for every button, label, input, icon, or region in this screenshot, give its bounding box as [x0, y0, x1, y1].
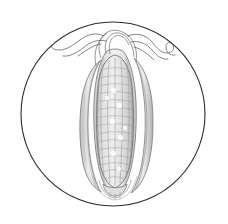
- corn-illustration-svg: [0, 0, 228, 224]
- cob: [97, 55, 134, 188]
- illustration-canvas: Ear of maize in circular vignette: [0, 0, 228, 224]
